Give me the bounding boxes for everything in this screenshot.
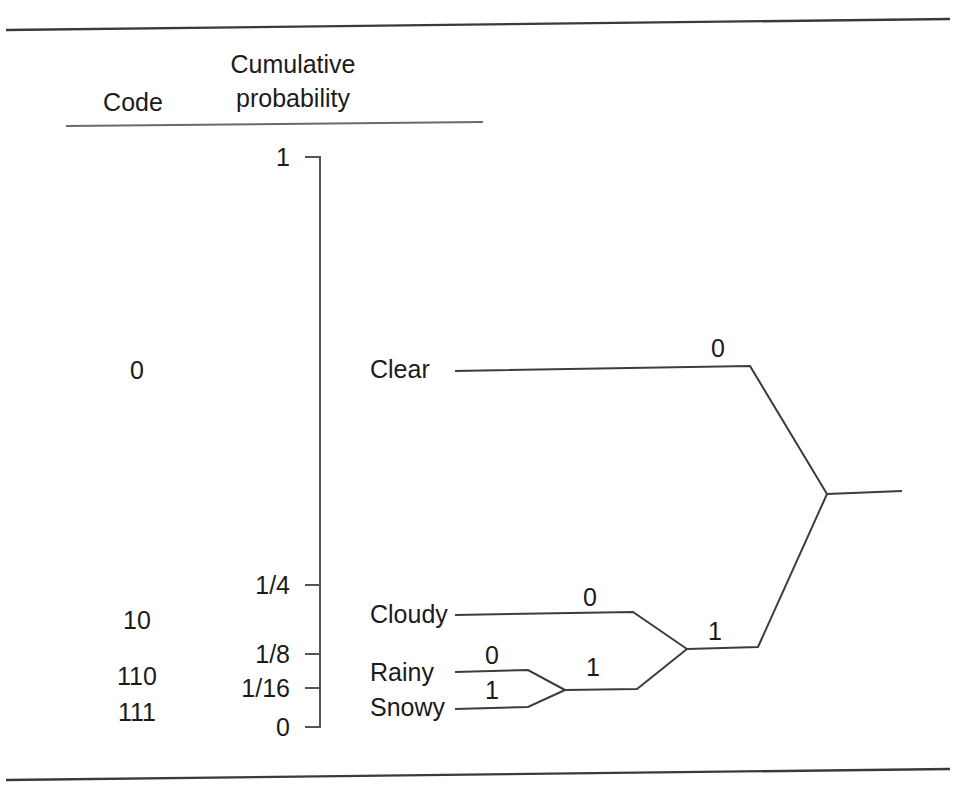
code-value-snowy: 111 [87, 700, 187, 725]
coding-tree-figure: Code Cumulative probability 0 10 110 111… [0, 0, 958, 793]
header-rule [66, 122, 483, 126]
axis-label-1-8: 1/8 [175, 642, 290, 667]
state-label-cloudy: Cloudy [370, 602, 448, 627]
column-heading-cumulative-line2: probability [208, 86, 378, 111]
state-label-clear: Clear [370, 357, 430, 382]
column-heading-cumulative-line1: Cumulative [208, 52, 378, 77]
state-label-snowy: Snowy [370, 695, 445, 720]
top-rule [6, 19, 950, 30]
column-heading-code: Code [74, 90, 192, 115]
root-stem [827, 491, 902, 494]
bottom-rule [6, 769, 950, 780]
code-value-cloudy: 10 [87, 608, 187, 633]
axis-label-1-4: 1/4 [175, 573, 290, 598]
branch-bit-rain-snow: 1 [573, 655, 613, 680]
branch-bit-rainy: 0 [472, 643, 512, 668]
branch-bit-cloudy: 0 [570, 585, 610, 610]
code-value-clear: 0 [87, 358, 187, 383]
axis-label-1: 1 [175, 145, 290, 170]
branch-bit-precipitation: 1 [695, 619, 735, 644]
axis-label-0: 0 [175, 715, 290, 740]
branch-bit-snowy: 1 [472, 678, 512, 703]
branch-bit-clear: 0 [698, 336, 738, 361]
state-label-rainy: Rainy [370, 660, 434, 685]
clear-branch-path [455, 366, 827, 494]
axis-label-1-16: 1/16 [175, 676, 290, 701]
code-value-rainy: 110 [87, 664, 187, 689]
